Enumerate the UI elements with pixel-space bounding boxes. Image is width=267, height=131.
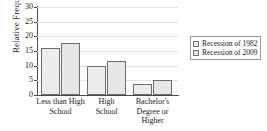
bar bbox=[61, 43, 80, 95]
plot-area: 051015202530 bbox=[37, 7, 178, 95]
bar bbox=[153, 80, 172, 95]
bar bbox=[41, 48, 60, 95]
x-axis-line bbox=[37, 95, 179, 96]
gridline bbox=[37, 7, 178, 8]
bar bbox=[107, 61, 126, 95]
chart-legend: Recession of 1982Recession of 2009 bbox=[190, 36, 261, 60]
y-tick-label: 5 bbox=[29, 76, 33, 84]
legend-swatch-2009 bbox=[193, 50, 199, 56]
y-tick-label: 20 bbox=[25, 32, 33, 40]
y-tick-mark bbox=[34, 95, 37, 96]
bar-chart: Relative Frequency 051015202530 Recessio… bbox=[0, 0, 267, 131]
legend-item: Recession of 1982 bbox=[193, 39, 257, 48]
y-tick-mark bbox=[34, 66, 37, 67]
y-tick-mark bbox=[34, 7, 37, 8]
y-tick-mark bbox=[34, 22, 37, 23]
y-tick-label: 30 bbox=[25, 3, 33, 11]
bar bbox=[87, 66, 106, 95]
bar bbox=[133, 84, 152, 95]
x-category-label-line: Bachelor's bbox=[119, 97, 187, 107]
legend-label: Recession of 1982 bbox=[202, 39, 257, 48]
gridline bbox=[37, 22, 178, 23]
legend-label: Recession of 2009 bbox=[202, 48, 257, 57]
gridline bbox=[37, 36, 178, 37]
y-tick-label: 25 bbox=[25, 18, 33, 26]
x-category-label: Bachelor'sDegree orHigher bbox=[119, 97, 187, 126]
x-category-label-line: Higher bbox=[119, 116, 187, 126]
y-tick-label: 15 bbox=[25, 47, 33, 55]
x-category-label-line: Degree or bbox=[119, 107, 187, 117]
legend-swatch-1982 bbox=[193, 41, 199, 47]
y-tick-label: 10 bbox=[25, 62, 33, 70]
y-tick-mark bbox=[34, 80, 37, 81]
legend-item: Recession of 2009 bbox=[193, 48, 257, 57]
y-axis-title: Relative Frequency bbox=[11, 0, 21, 61]
y-tick-mark bbox=[34, 51, 37, 52]
y-tick-mark bbox=[34, 36, 37, 37]
